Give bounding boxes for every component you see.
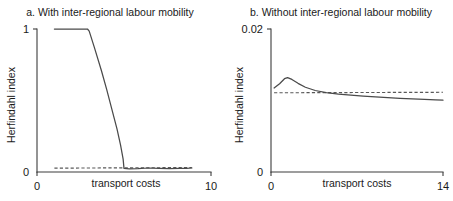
panel-b-solid-series xyxy=(274,78,443,101)
panel-a-title: a. With inter-regional labour mobility xyxy=(26,6,194,18)
panel-b-ytick-max: 0.02 xyxy=(242,23,263,35)
panel-b-title: b. Without inter-regional labour mobilit… xyxy=(250,6,433,18)
panel-b-xtick-min: 0 xyxy=(268,180,274,192)
panel-a-ylabel: Herfindahl index xyxy=(5,66,17,143)
panel-b-xlabel: transport costs xyxy=(323,177,392,189)
panel-a-xtick-min: 0 xyxy=(34,180,40,192)
panel-a: a. With inter-regional labour mobility H… xyxy=(0,0,221,201)
panel-b-svg: b. Without inter-regional labour mobilit… xyxy=(221,0,453,201)
figure-container: a. With inter-regional labour mobility H… xyxy=(0,0,453,201)
panel-b-dashed-series xyxy=(274,92,443,93)
panel-a-solid-series xyxy=(54,29,191,169)
panel-a-ytick-max: 1 xyxy=(23,23,29,35)
panel-b-ytick-min: 0 xyxy=(257,166,263,178)
panel-a-ytick-min: 0 xyxy=(23,166,29,178)
panel-b-xtick-max: 14 xyxy=(437,180,449,192)
panel-b-ylabel: Herfindahl index xyxy=(233,66,245,143)
panel-a-svg: a. With inter-regional labour mobility H… xyxy=(0,0,221,201)
panel-a-xlabel: transport costs xyxy=(92,177,161,189)
panel-a-xtick-max: 10 xyxy=(205,180,217,192)
panel-b: b. Without inter-regional labour mobilit… xyxy=(221,0,453,201)
